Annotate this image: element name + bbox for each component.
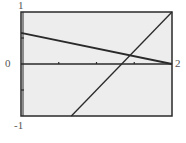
y-top-label: 1 [18, 0, 24, 11]
chart [0, 0, 186, 143]
x-right-label: 2 [175, 58, 181, 69]
y-bottom-label: -1 [14, 120, 23, 131]
x-left-label: 0 [5, 58, 11, 69]
